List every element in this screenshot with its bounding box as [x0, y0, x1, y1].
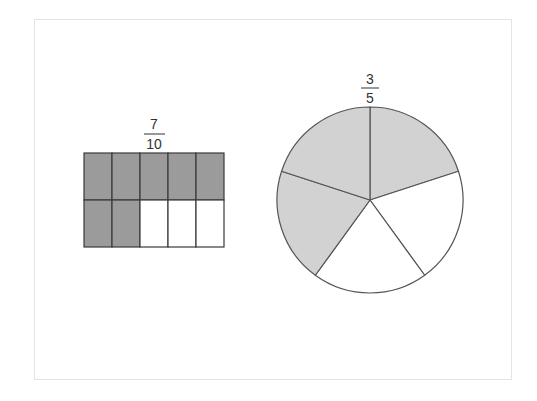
circle-fraction-model: 3 5: [277, 71, 463, 293]
rectangle-grid: [84, 153, 224, 247]
rectangle-fraction-model: 7 10: [84, 116, 224, 247]
grid-cell-unshaded: [140, 200, 168, 247]
fraction-models: 7 10 3 5: [0, 0, 537, 401]
circle-denominator: 5: [366, 90, 374, 106]
grid-cell-shaded: [140, 153, 168, 200]
circle-pie: [277, 107, 463, 293]
circle-numerator: 3: [366, 71, 374, 87]
grid-cell-unshaded: [168, 200, 196, 247]
grid-cell-shaded: [84, 153, 112, 200]
grid-cell-shaded: [168, 153, 196, 200]
rect-numerator: 7: [150, 116, 158, 132]
grid-cell-unshaded: [196, 200, 224, 247]
grid-cell-shaded: [84, 200, 112, 247]
grid-cell-shaded: [196, 153, 224, 200]
grid-cell-shaded: [112, 200, 140, 247]
grid-cell-shaded: [112, 153, 140, 200]
rect-denominator: 10: [146, 136, 162, 152]
